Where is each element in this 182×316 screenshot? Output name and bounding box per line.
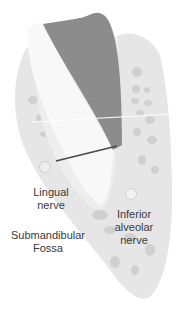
label-inferior-alveolar-nerve: Inferior alveolar nerve <box>108 208 160 247</box>
label-submandibular-fossa: Submandibular Fossa <box>6 229 90 255</box>
lingual-nerve-circle <box>40 162 51 173</box>
mandible-illustration <box>0 0 182 316</box>
mandible-cross-section-diagram: Lingual nerve Inferior alveolar nerve Su… <box>0 0 182 316</box>
inferior-alveolar-nerve-circle <box>126 189 137 200</box>
label-lingual-nerve: Lingual nerve <box>26 186 76 212</box>
